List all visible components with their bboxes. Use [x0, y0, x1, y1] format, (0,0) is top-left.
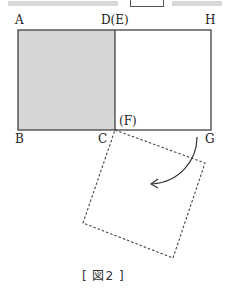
label-g: G	[205, 133, 215, 145]
label-c: C	[98, 133, 107, 145]
rotated-dashed-square	[83, 130, 205, 258]
label-h: H	[205, 14, 215, 26]
rotation-arrow	[152, 137, 197, 184]
geometry-figure	[0, 0, 228, 289]
label-a: A	[15, 14, 24, 26]
label-d-e: D(E)	[101, 14, 129, 26]
figure-caption: [ 図2 ]	[82, 266, 125, 283]
label-b: B	[15, 133, 24, 145]
shaded-square-abcd	[18, 30, 115, 130]
label-f: (F)	[119, 115, 137, 127]
